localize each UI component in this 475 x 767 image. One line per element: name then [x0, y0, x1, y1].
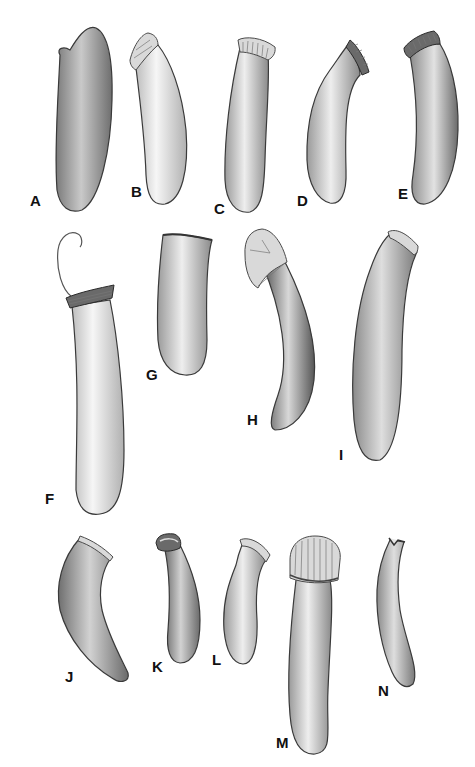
figure-c-label: C	[214, 200, 225, 217]
figure-e-label: E	[398, 185, 408, 202]
figure-n: N	[377, 538, 415, 699]
figure-n-label: N	[378, 682, 389, 699]
figure-h-body	[262, 260, 315, 431]
figure-g: G	[146, 234, 212, 383]
figure-i-body	[353, 234, 417, 461]
figure-b-body	[136, 45, 187, 204]
figure-g-body	[157, 234, 212, 375]
figure-e: E	[398, 31, 458, 204]
figure-a-label: A	[30, 192, 41, 209]
figure-l: L	[212, 539, 270, 668]
figure-i: I	[339, 231, 418, 463]
figure-d: D	[297, 40, 369, 209]
figure-a-body	[56, 27, 112, 211]
figure-g-label: G	[146, 366, 158, 383]
figure-h: H	[245, 229, 315, 430]
figure-m-cap	[290, 536, 340, 583]
figure-c: C	[214, 38, 275, 217]
figure-l-body	[224, 545, 266, 664]
figure-k-label: K	[152, 658, 163, 675]
figure-d-body	[307, 45, 360, 203]
figure-a: A	[30, 27, 112, 211]
illustration-plate: A B C D E F G	[0, 0, 475, 767]
figure-j: J	[58, 536, 128, 685]
figure-f-label: F	[45, 490, 54, 507]
figure-m-label: M	[276, 734, 289, 751]
figure-m: M	[276, 536, 340, 754]
figure-j-label: J	[65, 668, 73, 685]
figure-j-body	[58, 538, 128, 681]
figure-c-body	[225, 48, 269, 212]
figure-n-body	[377, 540, 415, 687]
figure-k-rim	[156, 534, 181, 551]
figure-m-body	[289, 580, 332, 754]
figure-f: F	[45, 233, 124, 515]
figure-b: B	[130, 33, 187, 204]
figure-d-label: D	[297, 192, 308, 209]
figure-l-label: L	[212, 651, 221, 668]
figure-f-thread	[58, 233, 82, 297]
figure-k-body	[165, 545, 200, 663]
figure-b-label: B	[131, 183, 142, 200]
figure-f-body	[72, 300, 124, 514]
figure-h-label: H	[247, 411, 258, 428]
figure-e-body	[410, 44, 458, 204]
figure-i-label: I	[339, 446, 343, 463]
figure-k: K	[152, 534, 200, 675]
